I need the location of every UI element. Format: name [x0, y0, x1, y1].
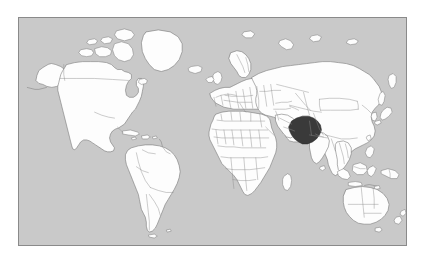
map-frame-border	[18, 17, 407, 246]
land-java	[348, 182, 362, 187]
land-newfoundland	[138, 78, 147, 84]
world-locator-map-figure	[0, 0, 424, 265]
land-ellesmere-island	[115, 29, 135, 41]
world-map-svg	[19, 18, 406, 245]
land-new-siberian-islands	[346, 39, 358, 45]
